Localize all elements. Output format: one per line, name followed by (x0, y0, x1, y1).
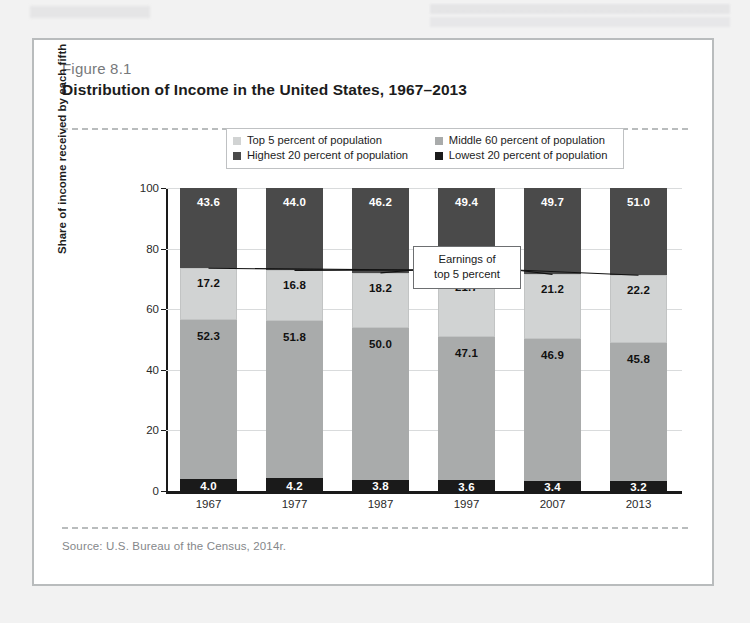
legend-item-top5: Top 5 percent of population (233, 133, 435, 148)
y-tick-mark (161, 188, 166, 189)
bar-stack[interactable]: 4.251.816.844.0 (266, 188, 323, 491)
legend-swatch-highest20-icon (233, 152, 241, 160)
x-tick-label: 1997 (438, 498, 495, 510)
value-label-top5: 17.2 (180, 277, 237, 289)
value-label-lowest20: 4.0 (180, 480, 237, 492)
value-label-top5: 18.2 (352, 282, 409, 294)
legend-swatch-top5-icon (233, 137, 241, 145)
legend-label-lowest20: Lowest 20 percent of population (449, 148, 608, 163)
legend-label-middle60: Middle 60 percent of population (449, 133, 605, 148)
page-bleed-artifact-left (30, 6, 150, 18)
value-label-middle60: 47.1 (438, 347, 495, 359)
legend-label-top5: Top 5 percent of population (247, 133, 382, 148)
figure-number: Figure 8.1 (62, 60, 467, 77)
value-label-top5: 16.8 (266, 279, 323, 291)
value-label-middle60: 45.8 (610, 353, 667, 365)
legend-swatch-lowest20-icon (435, 152, 443, 160)
x-axis-line (166, 491, 682, 494)
value-label-lowest20: 3.2 (610, 481, 667, 493)
bar-stack[interactable]: 3.850.018.246.2 (352, 188, 409, 491)
y-tick-label: 0 (153, 485, 159, 497)
gridline (166, 309, 682, 310)
y-tick-label: 20 (146, 424, 159, 436)
chart-legend: Top 5 percent of population Middle 60 pe… (226, 128, 624, 169)
y-tick-label: 100 (140, 182, 159, 194)
bar-stack[interactable]: 3.446.921.249.7 (524, 188, 581, 491)
value-label-lowest20: 3.4 (524, 481, 581, 493)
segment-middle60[interactable] (266, 321, 323, 478)
axis-area: 0204060801004.052.317.243.619674.251.816… (166, 188, 682, 494)
x-tick-label: 1977 (266, 498, 323, 510)
value-label-middle60: 50.0 (352, 338, 409, 350)
value-label-lowest20: 3.6 (438, 481, 495, 493)
x-tick-label: 2013 (610, 498, 667, 510)
gridline (166, 370, 682, 371)
segment-top5[interactable] (266, 270, 323, 321)
y-axis-title: Share of income received by each fifth (56, 44, 68, 254)
x-tick-label: 2007 (524, 498, 581, 510)
bar-stack[interactable]: 4.052.317.243.6 (180, 188, 237, 491)
callout-line-1: Earnings of (416, 252, 518, 267)
legend-swatch-middle60-icon (435, 137, 443, 145)
gridline (166, 188, 682, 189)
legend-item-lowest20: Lowest 20 percent of population (435, 148, 617, 163)
figure-title: Distribution of Income in the United Sta… (62, 81, 467, 99)
value-label-highest20: 44.0 (266, 196, 323, 208)
value-label-highest20: 46.2 (352, 196, 409, 208)
segment-top5[interactable] (180, 268, 237, 320)
y-tick-mark (161, 491, 166, 492)
chart-plot-area: Share of income received by each fifth 0… (62, 180, 688, 520)
value-label-middle60: 51.8 (266, 331, 323, 343)
figure-card: Figure 8.1 Distribution of Income in the… (32, 38, 714, 586)
x-tick-label: 1987 (352, 498, 409, 510)
value-label-middle60: 52.3 (180, 330, 237, 342)
value-label-lowest20: 4.2 (266, 480, 323, 492)
value-label-top5: 22.2 (610, 284, 667, 296)
y-tick-mark (161, 309, 166, 310)
y-tick-mark (161, 430, 166, 431)
gridline (166, 430, 682, 431)
bar-stack[interactable]: 3.647.121.749.4 (438, 188, 495, 491)
page-bleed-artifact (430, 4, 730, 30)
y-tick-label: 40 (146, 364, 159, 376)
value-label-middle60: 46.9 (524, 349, 581, 361)
callout-line-2: top 5 percent (416, 267, 518, 282)
value-label-top5: 21.2 (524, 283, 581, 295)
y-tick-mark (161, 370, 166, 371)
x-tick-label: 1967 (180, 498, 237, 510)
y-tick-mark (161, 249, 166, 250)
value-label-highest20: 49.7 (524, 196, 581, 208)
source-note: Source: U.S. Bureau of the Census, 2014r… (62, 540, 286, 552)
y-tick-label: 80 (146, 243, 159, 255)
figure-header: Figure 8.1 Distribution of Income in the… (62, 60, 467, 99)
legend-item-middle60: Middle 60 percent of population (435, 133, 617, 148)
callout-leader-lines (166, 188, 682, 494)
legend-item-highest20: Highest 20 percent of population (233, 148, 435, 163)
value-label-highest20: 43.6 (180, 196, 237, 208)
y-tick-label: 60 (146, 303, 159, 315)
divider-bottom (62, 527, 688, 529)
segment-middle60[interactable] (352, 328, 409, 480)
callout-earnings-top5: Earnings oftop 5 percent (413, 246, 521, 289)
bar-stack[interactable]: 3.245.822.251.0 (610, 188, 667, 491)
value-label-highest20: 49.4 (438, 196, 495, 208)
y-axis-line (166, 188, 168, 494)
value-label-highest20: 51.0 (610, 196, 667, 208)
legend-label-highest20: Highest 20 percent of population (247, 148, 408, 163)
value-label-lowest20: 3.8 (352, 480, 409, 492)
segment-middle60[interactable] (180, 320, 237, 478)
